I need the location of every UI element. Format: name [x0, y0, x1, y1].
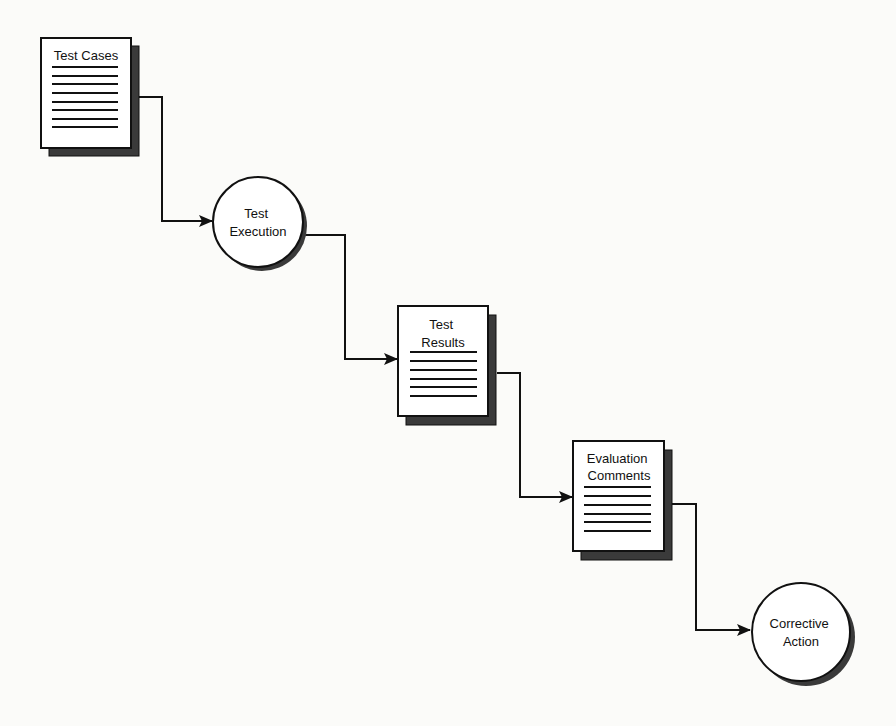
edge-test-execution-to-test-results	[303, 235, 397, 359]
node-evaluation-comments: Evaluation Comments	[573, 441, 672, 560]
edge-evaluation-comments-to-corrective-action	[672, 504, 750, 630]
node-test-results: Test Results	[398, 306, 496, 425]
edge-test-cases-to-test-execution	[139, 97, 212, 221]
flow-diagram: Test Cases Test Execution Test Results	[0, 0, 896, 726]
process-circle	[213, 177, 303, 267]
node-test-execution: Test Execution	[213, 177, 307, 271]
node-label: Test Cases	[54, 48, 119, 63]
process-circle	[752, 583, 850, 681]
node-test-cases: Test Cases	[41, 38, 139, 156]
edge-test-results-to-evaluation-comments	[497, 373, 572, 497]
node-corrective-action: Corrective Action	[752, 583, 855, 686]
